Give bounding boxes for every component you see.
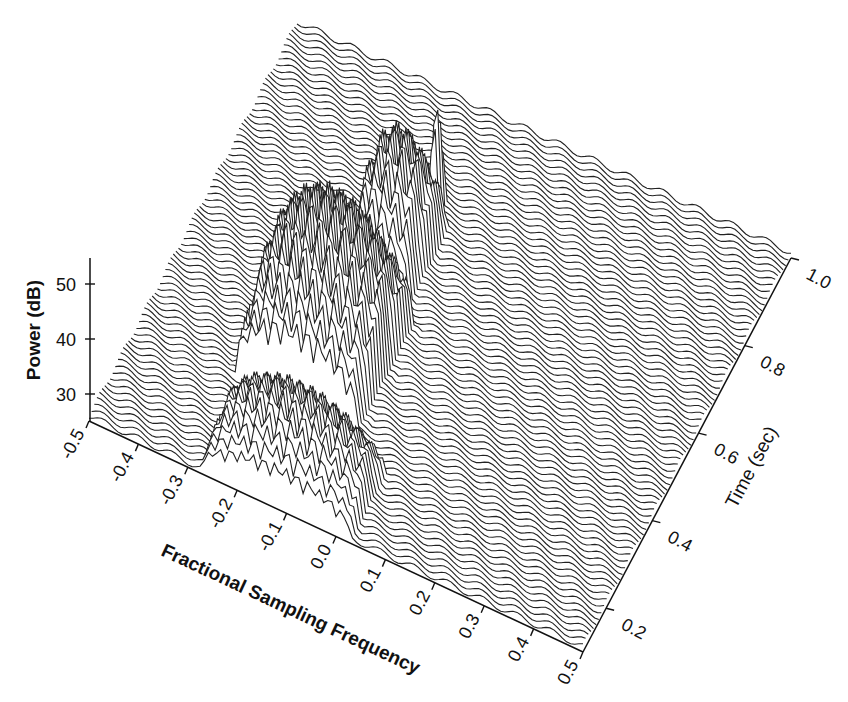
time-tick-label: 0.4 [664, 527, 695, 556]
frequency-tick [234, 490, 237, 497]
frequency-tick [135, 444, 138, 451]
power-axis-title: Power (dB) [23, 280, 44, 380]
power-tick-label: 30 [56, 385, 76, 405]
time-tick [699, 433, 707, 435]
frequency-tick [531, 629, 534, 636]
time-tick [745, 346, 753, 348]
frequency-tick-label: -0.5 [56, 425, 88, 462]
frequency-tick [382, 560, 385, 567]
time-tick-label: 0.6 [711, 439, 742, 468]
frequency-tick [580, 652, 583, 659]
frequency-tick-label: 0.5 [553, 656, 582, 687]
frequency-tick-label: -0.2 [205, 495, 237, 532]
frequency-axis-title: Fractional Sampling Frequency [158, 540, 424, 679]
frequency-tick-label: 0.2 [405, 587, 434, 618]
time-tick [791, 258, 799, 260]
power-tick-label: 50 [56, 275, 76, 295]
time-tick [606, 608, 614, 610]
frequency-tick-label: 0.4 [504, 633, 533, 664]
frequency-tick-label: 0.0 [306, 541, 335, 572]
frequency-tick-label: 0.3 [454, 610, 483, 641]
frequency-tick [432, 583, 435, 590]
frequency-tick-label: -0.3 [155, 472, 187, 509]
frequency-tick [481, 606, 484, 613]
frequency-tick [185, 467, 188, 474]
frequency-tick [284, 513, 287, 520]
time-tick [652, 521, 660, 523]
time-tick-label: 0.2 [618, 614, 649, 643]
frequency-tick [86, 421, 89, 428]
waterfall-plot: 304050 -0.5-0.4-0.3-0.2-0.10.00.10.20.30… [0, 0, 848, 702]
frequency-tick [333, 537, 336, 544]
frequency-tick-label: -0.4 [106, 449, 138, 486]
frequency-tick-label: 0.1 [356, 564, 385, 595]
time-tick-label: 1.0 [803, 264, 834, 293]
power-axis-ticks: 304050 [56, 275, 95, 405]
frequency-tick-label: -0.1 [254, 518, 286, 555]
time-tick-label: 0.8 [757, 351, 788, 380]
power-tick-label: 40 [56, 330, 76, 350]
